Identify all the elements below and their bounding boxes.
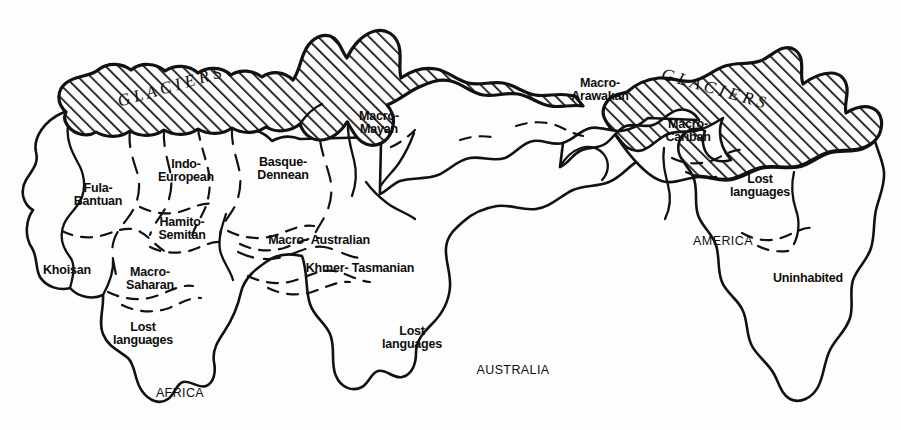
- afro-eurasia-landmass: [23, 111, 699, 402]
- map-illustration: [0, 0, 901, 430]
- afro-eurasia-coastline: [23, 111, 699, 402]
- language-families-map: G L A C I E R S G L A C I E R S Fula- Ba…: [0, 0, 901, 430]
- boundary-arawakan-dash-2: [460, 136, 496, 140]
- glacier-band-left: [59, 30, 583, 145]
- glacier-shape-left: [59, 30, 583, 145]
- boundary-arawakan-dash: [516, 122, 583, 136]
